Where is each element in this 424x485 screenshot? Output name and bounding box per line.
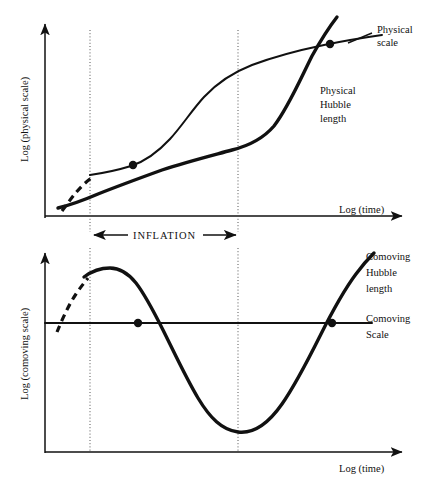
physical-scale-label-line2: scale	[377, 37, 398, 48]
top-crossing-point-1	[129, 161, 137, 169]
comoving-scale-label-line2: Scale	[366, 329, 389, 340]
physical-hubble-label-line2: Hubble	[320, 99, 351, 110]
physical-hubble-label-line3: length	[320, 113, 347, 124]
bottom-x-axis-label: Log (time)	[339, 463, 385, 475]
top-panel: Log (physical scale) Log (time) Physical…	[19, 17, 413, 232]
top-crossing-point-2	[326, 40, 334, 48]
bottom-y-axis-label: Log (comoving scale)	[19, 307, 31, 400]
top-y-axis-label: Log (physical scale)	[19, 76, 31, 162]
inflation-label: INFLATION	[133, 230, 196, 241]
figure-root: Log (physical scale) Log (time) Physical…	[0, 0, 424, 485]
comoving-hubble-length-curve	[84, 253, 374, 432]
physical-hubble-label-line1: Physical	[320, 85, 356, 96]
comoving-scale-label-line1: Comoving	[366, 313, 411, 324]
bottom-crossing-point-2	[328, 319, 336, 327]
bottom-panel: Log (comoving scale) Log (time) Comoving…	[19, 248, 411, 475]
inflation-diagram: Log (physical scale) Log (time) Physical…	[0, 0, 424, 485]
physical-hubble-length-curve	[58, 17, 337, 208]
physical-scale-label-line1: Physical	[377, 24, 413, 35]
top-x-axis-label: Log (time)	[339, 204, 385, 216]
inflation-band: INFLATION	[94, 230, 236, 241]
comoving-hubble-label-line1: Comoving	[366, 251, 411, 262]
comoving-hubble-label-line3: length	[366, 283, 393, 294]
comoving-hubble-label-line2: Hubble	[366, 267, 397, 278]
bottom-crossing-point-1	[134, 319, 142, 327]
